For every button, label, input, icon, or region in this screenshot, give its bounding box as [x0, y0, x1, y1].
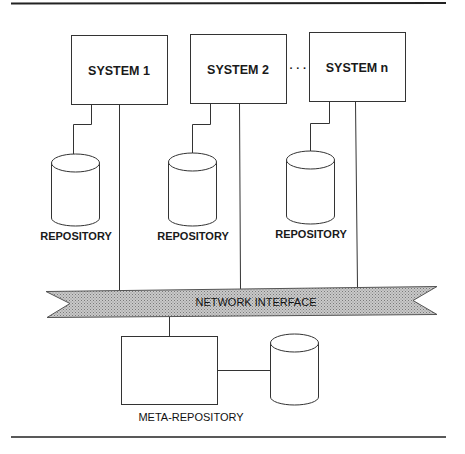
more-systems-ellipsis: · · · [289, 62, 306, 74]
system-2-repo-wire [193, 104, 211, 154]
system-n-network-line [356, 102, 358, 289]
system-2-group: SYSTEM 2 REPOSITORY [157, 35, 286, 290]
meta-repository-group: META-REPOSITORY [122, 317, 319, 423]
system-2-network-line [240, 104, 241, 290]
system-1-label: SYSTEM 1 [88, 64, 150, 78]
system-1-group: SYSTEM 1 REPOSITORY [40, 36, 167, 291]
meta-repository-cylinder-icon [271, 334, 319, 405]
system-n-label: SYSTEM n [326, 61, 389, 75]
repository-n-cylinder-icon [287, 151, 335, 224]
architecture-diagram: SYSTEM 1 REPOSITORY SYSTEM 2 REPOSITORY … [0, 0, 465, 454]
repository-2-cylinder-icon [169, 153, 217, 226]
network-interface-banner[interactable]: NETWORK INTERFACE [46, 287, 437, 318]
system-1-repo-wire [74, 105, 92, 155]
meta-repository-box[interactable] [122, 337, 218, 405]
repository-n-label: REPOSITORY [275, 228, 347, 240]
repository-1-cylinder-icon [52, 154, 100, 226]
system-n-repo-wire [311, 102, 330, 152]
meta-repository-label: META-REPOSITORY [138, 411, 244, 423]
repository-1-label: REPOSITORY [40, 230, 112, 242]
network-interface-label: NETWORK INTERFACE [195, 296, 316, 308]
repository-2-label: REPOSITORY [157, 230, 229, 242]
system-2-label: SYSTEM 2 [207, 63, 269, 77]
top-rule [11, 3, 446, 4]
